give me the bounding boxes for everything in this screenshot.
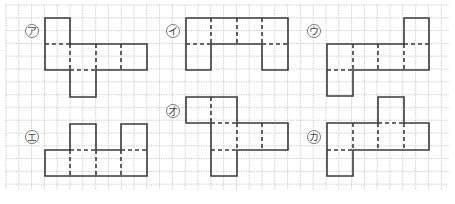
net-face (237, 18, 262, 44)
net-face (121, 44, 147, 70)
net-face (327, 44, 353, 70)
net-face (327, 70, 353, 96)
net-face (353, 44, 378, 70)
net-face (121, 124, 147, 150)
net-face (378, 123, 404, 150)
net-face (353, 123, 378, 150)
cube-nets-figure: アイウエオカ (0, 0, 455, 204)
net-face (262, 44, 288, 70)
net-face (262, 123, 288, 150)
cube-net-a: ア (26, 18, 148, 97)
cube-net-i: イ (167, 18, 289, 70)
net-face (404, 123, 429, 150)
net-face (70, 124, 96, 150)
net-face (70, 70, 96, 97)
net-face (211, 97, 237, 123)
net-face (327, 150, 353, 176)
net-face (404, 44, 429, 70)
net-face (186, 97, 211, 123)
net-label: ア (27, 26, 37, 37)
net-face (121, 150, 147, 176)
net-face (378, 97, 404, 123)
net-label: エ (27, 132, 37, 143)
net-label: カ (309, 132, 319, 143)
net-face (186, 18, 211, 44)
net-face (327, 123, 353, 150)
net-face (70, 150, 96, 176)
net-face (262, 18, 288, 44)
net-face (96, 150, 121, 176)
net-label: イ (168, 26, 178, 37)
nets-layer: アイウエオカ (26, 18, 430, 176)
net-face (70, 44, 96, 70)
cube-net-ka: カ (308, 97, 430, 176)
net-face (237, 123, 262, 150)
cube-net-u: ウ (308, 18, 430, 96)
cube-net-o: オ (167, 97, 289, 176)
net-face (404, 18, 429, 44)
net-face (45, 150, 70, 176)
net-label: オ (168, 106, 178, 117)
net-face (211, 150, 237, 176)
cube-net-e: エ (26, 124, 148, 176)
net-face (378, 44, 404, 70)
net-face (45, 44, 70, 70)
net-label: ウ (309, 26, 319, 37)
net-face (211, 18, 237, 44)
net-face (45, 18, 70, 44)
net-face (186, 44, 211, 70)
net-face (96, 44, 121, 70)
net-face (211, 123, 237, 150)
